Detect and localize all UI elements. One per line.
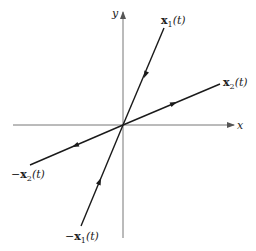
label-x2: x2(t) bbox=[223, 76, 248, 91]
phase-portrait: y x x1(t) x2(t) −x2(t) −x1(t) bbox=[0, 0, 256, 251]
x-axis-label: x bbox=[237, 119, 244, 132]
label-neg-x1: −x1(t) bbox=[65, 230, 99, 245]
y-axis-label: y bbox=[111, 7, 119, 20]
label-neg-x2: −x2(t) bbox=[11, 168, 45, 183]
arrow-neg-x2-icon bbox=[71, 142, 79, 149]
label-x1: x1(t) bbox=[161, 14, 186, 29]
arrow-neg-x1-icon bbox=[96, 177, 103, 185]
arrow-x2-icon bbox=[170, 100, 178, 107]
